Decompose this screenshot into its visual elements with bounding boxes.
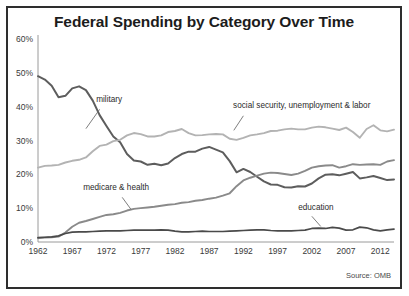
- x-axis-tick-label: 1962: [29, 246, 48, 256]
- chart-frame: Federal Spending by Category Over Time 0…: [6, 6, 402, 289]
- y-axis-tick-label: 30%: [16, 136, 33, 146]
- x-axis-tick-label: 2002: [302, 246, 321, 256]
- x-axis-tick-label: 1967: [63, 246, 82, 256]
- annotation-label-social-security: social security, unemployment & labor: [233, 101, 371, 110]
- annotation-leader-social-security: [234, 116, 244, 131]
- x-axis-tick-label: 2007: [337, 246, 356, 256]
- annotation-label-medicare: medicare & health: [83, 183, 149, 192]
- y-axis-tick-label: 40%: [16, 102, 33, 112]
- y-axis-tick-label: 20%: [16, 169, 33, 179]
- x-axis-tick-label: 1977: [131, 246, 150, 256]
- annotation-leader-education: [312, 216, 321, 226]
- annotation-label-military: military: [96, 95, 123, 104]
- series-line-military: [38, 76, 394, 187]
- series-line-medicare-health: [38, 160, 394, 238]
- y-axis-tick-label: 10%: [16, 203, 33, 213]
- x-axis-tick-label: 1997: [268, 246, 287, 256]
- x-axis-tick-label: 1987: [200, 246, 219, 256]
- x-axis-tick-label: 1972: [97, 246, 116, 256]
- series-line-social-security: [38, 125, 394, 167]
- annotation-leader-military: [86, 109, 100, 128]
- x-axis-tick-label: 1982: [165, 246, 184, 256]
- annotation-leader-medicare: [122, 197, 131, 209]
- y-axis-tick-label: 50%: [16, 68, 33, 78]
- x-axis-tick-label: 1992: [234, 246, 253, 256]
- annotation-label-education: education: [298, 203, 334, 212]
- source-attribution: Source: OMB: [346, 271, 391, 280]
- x-axis-tick-label: 2012: [371, 246, 390, 256]
- y-axis-tick-label: 60%: [16, 34, 33, 44]
- plot-area: 0%10%20%30%40%50%60%19621967197219771982…: [8, 8, 404, 291]
- line-chart: 0%10%20%30%40%50%60%19621967197219771982…: [8, 8, 404, 291]
- series-line-education: [38, 227, 394, 237]
